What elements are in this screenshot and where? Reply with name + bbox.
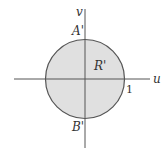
point-b-prime-label: B' — [71, 120, 84, 134]
u-axis-label: u — [153, 72, 161, 86]
tick-label-one: 1 — [126, 83, 133, 96]
point-a-prime-label: A' — [71, 24, 84, 38]
v-axis-label: v — [76, 5, 83, 19]
region-label: R' — [93, 59, 106, 73]
uv-plane-diagram: v u A' R' 1 B' — [0, 0, 165, 157]
